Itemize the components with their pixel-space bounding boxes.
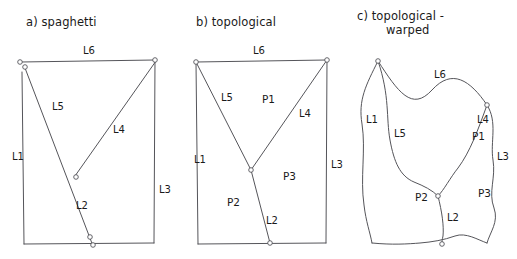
node-marker [325,58,330,63]
edge-L6 [378,61,487,105]
node-marker [194,60,199,65]
edge-L4 [251,60,327,170]
panel-c-edges [361,61,496,244]
panel-b-edges [196,60,327,244]
node-marker [440,242,445,247]
edge-L2 [438,196,443,243]
panel-b-title: b) topological [196,15,276,29]
edge-label-L5: L5 [52,101,64,112]
edge-L1 [361,61,378,243]
polygon-label-P2: P2 [415,191,428,203]
edge-L3 [487,105,495,243]
edge-L5 [378,61,438,196]
panel-b-edge-labels: L6 L5 L4 L1 L3 L2 [194,45,343,226]
panel-c-title-line1: c) topological - [357,9,444,23]
edge-label-L1: L1 [12,151,24,162]
node-marker [88,235,93,240]
polygon-label-P2: P2 [227,196,240,208]
panel-c-topological-warped: c) topological - warped L6 L1 L5 L4 L3 L… [357,9,509,246]
node-marker [485,103,490,108]
edge-label-L2: L2 [266,215,278,226]
edge-label-L3: L3 [497,151,509,162]
edge-bottom [198,243,326,244]
polygon-label-P3: P3 [283,170,296,182]
edge-bottom [372,235,487,244]
panel-c-edge-labels: L6 L1 L5 L4 L3 L2 [366,69,509,223]
edge-L1 [196,62,198,244]
node-marker [376,59,381,64]
edge-label-L3: L3 [331,159,343,170]
edge-label-L2: L2 [447,212,459,223]
panel-c-polygon-labels: P1 P3 P2 [415,130,491,203]
edge-label-L3: L3 [159,184,171,195]
node-marker [23,65,28,70]
edge-label-L4: L4 [113,124,125,135]
edge-L2 [251,170,270,243]
edge-L4 [75,61,156,176]
panel-b-polygon-labels: P1 P3 P2 [227,93,296,208]
edge-L3 [154,60,155,243]
node-marker [249,168,254,173]
edge-label-L5: L5 [394,128,406,139]
node-marker [74,175,79,180]
edge-L6 [196,60,327,62]
polygon-label-P1: P1 [472,130,485,142]
edge-label-L4: L4 [299,108,311,119]
panel-b-topological: b) topological L6 L5 L4 L1 L3 L2 P1 [194,15,343,245]
edge-label-L6: L6 [83,45,95,56]
panel-a-edges [21,60,156,246]
panel-a-edge-labels: L6 L5 L4 L1 L3 L2 [12,45,171,211]
edge-label-L6: L6 [253,45,265,56]
node-marker [268,241,273,246]
panel-c-title-line2: warped [386,23,429,37]
edge-L5-L2 [25,68,93,246]
edge-L6 [21,60,155,62]
panel-a-spaghetti: a) spaghetti L6 L5 L4 L1 L3 L2 [12,15,171,247]
polygon-label-P3: P3 [478,187,491,199]
edge-label-L5: L5 [221,92,233,103]
panel-a-nodes [18,58,158,248]
panel-a-title: a) spaghetti [26,15,97,29]
node-marker [91,243,96,248]
edge-label-L6: L6 [434,69,446,80]
edge-bottom [24,243,154,244]
edge-label-L4: L4 [477,114,489,125]
edge-L3 [326,60,327,243]
polygon-label-P1: P1 [262,93,275,105]
node-marker [153,58,158,63]
edge-label-L2: L2 [76,200,88,211]
topology-comparison-figure: a) spaghetti L6 L5 L4 L1 L3 L2 b) [0,0,517,259]
edge-label-L1: L1 [194,154,206,165]
node-marker [18,60,23,65]
node-marker [436,194,441,199]
edge-label-L1: L1 [366,114,378,125]
